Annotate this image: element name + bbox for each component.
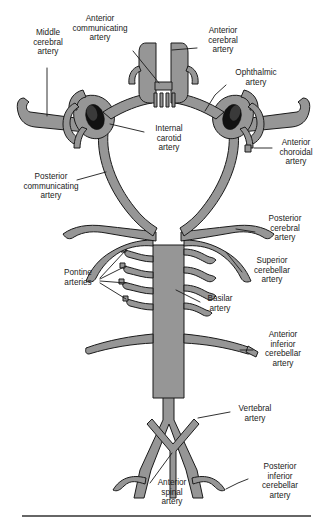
label-anterior-choroidal-artery: Anterior choroidal artery (268, 138, 324, 167)
leader-internal-carotid (110, 124, 144, 132)
label-anterior-communicating-artery: Anterior communicating artery (62, 14, 138, 43)
label-anterior-inferior-cerebellar-artery: Anterior inferior cerebellar artery (254, 330, 312, 368)
label-ophthalmic-artery: Ophthalmic artery (222, 68, 290, 87)
label-basilar-artery: Basilar artery (198, 294, 242, 313)
label-pontine-arteries: Pontine arteries (54, 268, 102, 287)
figure-canvas: Middle cerebral artery Anterior communic… (0, 0, 327, 532)
label-posterior-cerebral-artery: Posterior cerebral artery (254, 214, 316, 243)
leader-posterior-inferior-cerebellar (226, 479, 248, 489)
label-internal-carotid-artery: Internal carotid artery (144, 124, 194, 153)
label-posterior-inferior-cerebellar-artery: Posterior inferior cerebellar artery (250, 462, 310, 500)
label-anterior-cerebral-artery: Anterior cerebral artery (192, 26, 254, 55)
anterior-inferior-cerebellar-artery-left (86, 334, 153, 354)
basilar-artery (153, 245, 184, 398)
label-vertebral-artery: Vertebral artery (228, 404, 282, 423)
leader-vertebral (198, 412, 230, 418)
anterior-cerebral-artery-left (139, 43, 156, 103)
label-posterior-communicating-artery: Posterior communicating artery (14, 172, 88, 201)
label-anterior-spinal-artery: Anterior spinal artery (148, 478, 196, 507)
lenticulostriate-branches (154, 93, 175, 107)
anterior-communicating-artery (155, 82, 172, 90)
anterior-inferior-cerebellar-artery-right (184, 334, 258, 357)
label-superior-cerebellar-artery: Superior cerebellar artery (240, 256, 304, 285)
